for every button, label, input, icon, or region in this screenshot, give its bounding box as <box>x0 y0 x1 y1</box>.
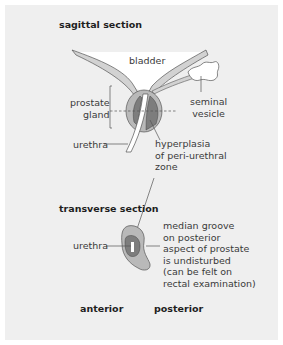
sagittal-heading: sagittal section <box>59 19 142 30</box>
prostate-gland-label: prostate gland <box>70 97 110 120</box>
transverse-urethra <box>131 242 134 252</box>
posterior-label: posterior <box>154 303 203 314</box>
median-groove-label: median groove on posterior aspect of pro… <box>163 220 256 289</box>
anatomy-illustration <box>0 0 283 345</box>
hyperplasia-label: hyperplasia of peri-urethral zone <box>155 138 227 173</box>
urethra-label-sagittal: urethra <box>73 139 108 151</box>
transverse-heading: transverse section <box>59 203 159 214</box>
urethra-label-transverse: urethra <box>73 240 108 252</box>
seminal-vesicle-label: seminal vesicle <box>190 96 227 119</box>
prostate-bracket <box>110 86 112 128</box>
anterior-label: anterior <box>80 303 123 314</box>
bladder-label: bladder <box>129 55 165 67</box>
seminal-vesicle-shape <box>188 62 219 81</box>
